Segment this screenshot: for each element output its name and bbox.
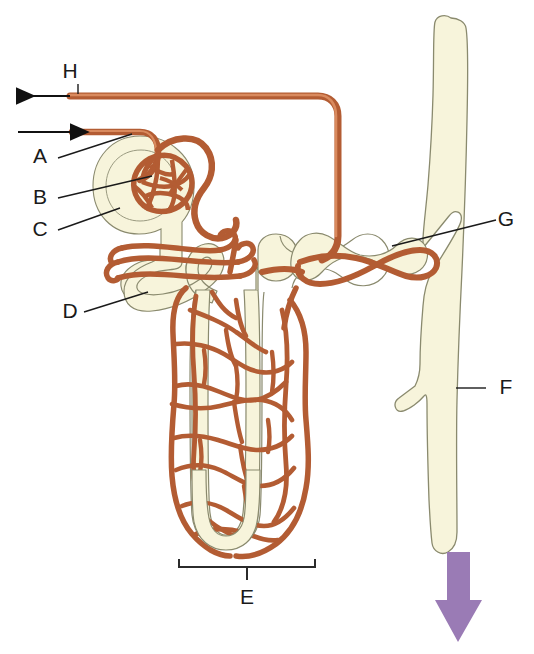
nephron-diagram: H A B C D E F G: [0, 0, 534, 654]
label-e-loop-of-henle: E: [240, 585, 254, 608]
leader-g: [392, 220, 496, 246]
label-g-distal-tubule: G: [498, 207, 514, 230]
label-d-proximal-tubule: D: [62, 299, 77, 322]
label-a-afferent-arteriole: A: [33, 144, 47, 167]
loop-of-henle-bracket: [179, 559, 315, 580]
label-h-efferent-venule: H: [62, 59, 77, 82]
label-b-glomerulus: B: [33, 185, 47, 208]
bowmans-capsule: [93, 136, 194, 247]
label-c-bowmans-capsule: C: [32, 217, 47, 240]
urine-flow-arrow: [435, 552, 482, 642]
collecting-duct: [395, 16, 468, 554]
label-f-collecting-duct: F: [500, 375, 513, 398]
